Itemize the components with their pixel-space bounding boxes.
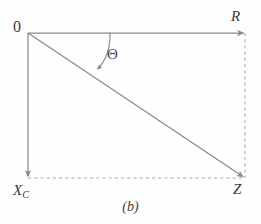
diagram-canvas (0, 0, 261, 224)
resistance-axis-label: R (231, 9, 240, 24)
phasor-diagram-figure: 0 R XC Z Θ (b) (0, 0, 261, 224)
impedance-vector-label: Z (233, 182, 241, 197)
z-vector-arrow (28, 33, 243, 177)
figure-caption: (b) (0, 199, 261, 215)
reactance-axis-label: XC (13, 183, 29, 200)
origin-label: 0 (13, 19, 21, 35)
reactance-axis-label-main: X (13, 182, 22, 198)
theta-angle-label: Θ (107, 47, 118, 62)
